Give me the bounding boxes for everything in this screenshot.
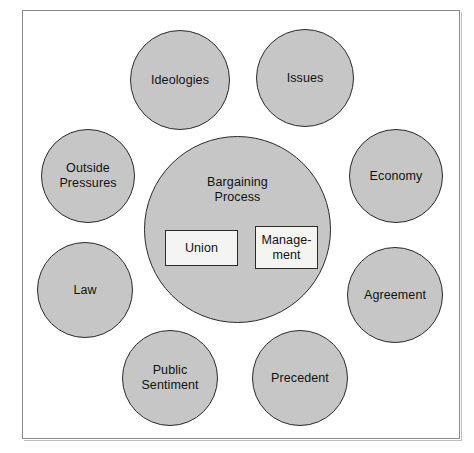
node-outside-pressures[interactable]: Outside Pressures — [41, 129, 135, 223]
node-ideologies[interactable]: Ideologies — [130, 30, 230, 130]
node-outside-pressures-label: Outside Pressures — [53, 161, 122, 191]
node-agreement-label: Agreement — [358, 288, 432, 303]
node-precedent[interactable]: Precedent — [252, 330, 348, 426]
node-public-sentiment[interactable]: Public Sentiment — [122, 330, 218, 426]
node-law-label: Law — [67, 283, 102, 298]
party-box-management[interactable]: Manage- ment — [255, 226, 318, 269]
node-economy-label: Economy — [364, 169, 429, 184]
node-economy[interactable]: Economy — [349, 129, 443, 223]
node-law[interactable]: Law — [37, 242, 133, 338]
party-box-union-label: Union — [185, 241, 218, 256]
party-box-management-label: Manage- ment — [261, 233, 311, 263]
node-agreement[interactable]: Agreement — [347, 247, 443, 343]
node-issues[interactable]: Issues — [256, 29, 354, 127]
node-public-sentiment-label: Public Sentiment — [135, 363, 204, 393]
bargaining-process-diagram: Ideologies Issues Outside Pressures Econ… — [0, 0, 474, 453]
node-precedent-label: Precedent — [265, 371, 335, 386]
node-ideologies-label: Ideologies — [145, 73, 215, 88]
party-box-union[interactable]: Union — [165, 230, 238, 266]
node-bargaining-process[interactable]: Bargaining Process Union Manage- ment — [144, 136, 331, 323]
node-bargaining-process-label: Bargaining Process — [145, 175, 330, 205]
node-issues-label: Issues — [281, 71, 330, 86]
